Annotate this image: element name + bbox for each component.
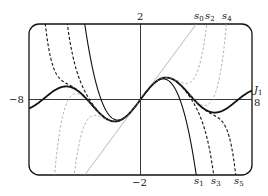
label-s5: s5 <box>234 175 244 188</box>
chart: 2 −2 −8 8 s0 s2 s4 s1 s3 s5 J1 <box>0 0 268 196</box>
label-s4: s4 <box>222 10 232 23</box>
label-s1: s1 <box>194 175 204 188</box>
x-max-label: 8 <box>254 97 260 108</box>
y-max-label: 2 <box>137 11 143 22</box>
x-min-label: −8 <box>9 94 24 105</box>
label-s0: s0 <box>194 10 204 23</box>
label-s2: s2 <box>205 10 215 23</box>
label-s3: s3 <box>211 175 221 188</box>
y-min-label: −2 <box>132 177 147 188</box>
label-J1: J1 <box>252 84 262 97</box>
